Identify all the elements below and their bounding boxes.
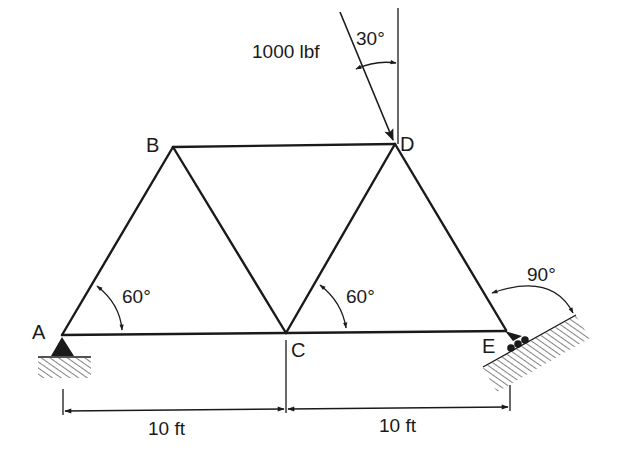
angle-c-arc-icon [320, 285, 346, 328]
joint-b-label: B [146, 134, 159, 156]
dimension-right-label: 10 ft [379, 415, 417, 436]
load-angle-label: 30° [356, 28, 385, 49]
angle-a-arc-icon [97, 286, 122, 330]
member-ac [62, 333, 286, 335]
dimension-left-label: 10 ft [148, 418, 186, 439]
angle-a-label: 60° [122, 286, 151, 307]
joint-a-label: A [32, 321, 46, 343]
load-label: 1000 lbf [252, 41, 320, 62]
angle-e-label: 90° [527, 264, 556, 285]
angle-e-arc-icon [492, 286, 573, 313]
member-de [395, 144, 506, 330]
member-bc [173, 147, 286, 333]
member-ab [62, 147, 173, 335]
joint-c-label: C [291, 339, 305, 361]
roller-support-e [483, 315, 590, 392]
member-cd [286, 144, 395, 333]
member-ce [286, 331, 506, 333]
pin-support-a [38, 337, 91, 378]
truss-diagram: 1000 lbf 30° 60° 60° 90° A B C D E 10 ft… [0, 0, 621, 467]
joint-e-label: E [482, 335, 495, 357]
dimension-lines [63, 340, 510, 415]
member-bd [173, 144, 395, 147]
angle-c-label: 60° [346, 286, 375, 307]
joint-d-label: D [400, 133, 414, 155]
